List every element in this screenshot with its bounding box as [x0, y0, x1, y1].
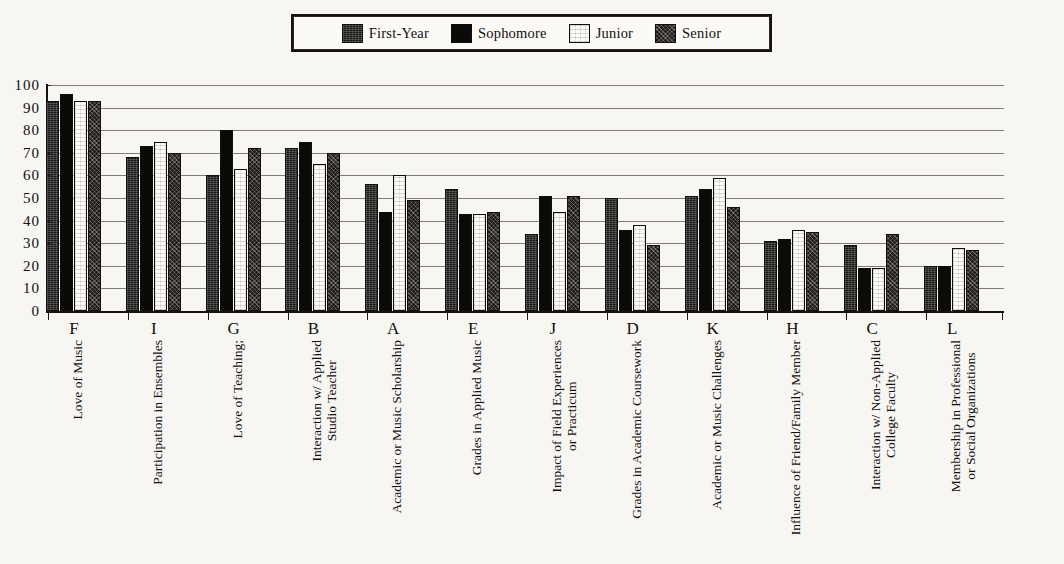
- x-tick-mark: [846, 313, 847, 320]
- bar-junior: [154, 142, 167, 312]
- x-tick-mark: [687, 313, 688, 320]
- bar-group: [844, 85, 924, 311]
- bar-sophomore: [539, 196, 552, 311]
- bar-senior: [407, 200, 420, 311]
- bar-sophomore: [459, 214, 472, 311]
- bar-senior: [88, 101, 101, 311]
- dark-textured-swatch-icon: [655, 24, 676, 43]
- bar-senior: [248, 148, 261, 311]
- bar-firstyear: [605, 198, 618, 311]
- solid-black-swatch-icon: [451, 24, 472, 43]
- x-tick-mark: [527, 313, 528, 320]
- bar-group: [525, 85, 605, 311]
- x-tick-mark: [607, 313, 608, 320]
- y-tick-label: 20: [23, 258, 40, 274]
- bar-group: [924, 85, 1004, 311]
- bar-senior: [168, 153, 181, 311]
- x-tick-mark: [767, 313, 768, 320]
- bar-firstyear: [525, 234, 538, 311]
- y-tick-mark: [46, 311, 51, 312]
- x-tick-label: F: [69, 319, 78, 339]
- category-label: Love of Music: [70, 340, 85, 419]
- bar-junior: [553, 212, 566, 311]
- y-tick-mark: [46, 85, 51, 86]
- bar-firstyear: [206, 175, 219, 311]
- bar-firstyear: [924, 266, 937, 311]
- bar-junior: [713, 178, 726, 311]
- bar-group: [206, 85, 286, 311]
- dark-hatched-swatch-icon: [342, 24, 363, 43]
- x-tick-mark: [128, 313, 129, 320]
- legend-label-sophomore: Sophomore: [478, 25, 547, 42]
- category-label-line2: or Practicum: [564, 340, 579, 493]
- bar-firstyear: [46, 101, 59, 311]
- x-tick-label: I: [151, 319, 157, 339]
- bar-sophomore: [938, 266, 951, 311]
- bar-firstyear: [285, 148, 298, 311]
- category-label: Academic or Music Scholarship: [389, 340, 404, 514]
- bar-junior: [74, 101, 87, 311]
- y-tick-mark: [46, 198, 51, 199]
- bar-firstyear: [445, 189, 458, 311]
- x-tick-mark: [1002, 313, 1003, 320]
- y-tick-label: 40: [23, 213, 40, 229]
- y-tick-mark: [46, 288, 51, 289]
- y-axis-tick-labels: 1009080706050403020100: [0, 76, 40, 321]
- category-label: Love of Teaching;: [230, 340, 245, 439]
- plot-area: [46, 85, 1004, 311]
- category-label-line2: College Faculty: [883, 340, 898, 490]
- bar-junior: [633, 225, 646, 311]
- legend-label-junior: Junior: [596, 25, 633, 42]
- bar-junior: [872, 268, 885, 311]
- bar-senior: [966, 250, 979, 311]
- bar-junior: [473, 214, 486, 311]
- category-label-line2: Studio Teacher: [324, 340, 339, 461]
- x-axis-ticks: FIGBAEJDKHCL: [46, 313, 1004, 339]
- bar-sophomore: [619, 230, 632, 311]
- x-tick-label: L: [947, 319, 957, 339]
- chart-legend: First-Year Sophomore Junior Senior: [291, 14, 772, 52]
- category-label: Grades in Academic Coursework: [629, 340, 644, 519]
- legend-item-senior: Senior: [655, 24, 721, 43]
- x-tick-mark: [367, 313, 368, 320]
- category-label: Interaction w/ Non-AppliedCollege Facult…: [868, 340, 898, 490]
- y-tick-mark: [46, 175, 51, 176]
- category-label: Interaction w/ AppliedStudio Teacher: [309, 340, 339, 461]
- legend-label-senior: Senior: [682, 25, 721, 42]
- bar-sophomore: [699, 189, 712, 311]
- x-tick-label: C: [867, 319, 878, 339]
- bar-senior: [806, 232, 819, 311]
- x-tick-label: K: [706, 319, 718, 339]
- category-label: Membership in Professionalor Social Orga…: [948, 340, 978, 492]
- x-tick-label: D: [627, 319, 639, 339]
- category-label: Influence of Friend/Family Member: [788, 340, 803, 535]
- category-label: Participation in Ensembles: [150, 340, 165, 485]
- x-tick-label: B: [308, 319, 319, 339]
- bar-junior: [792, 230, 805, 311]
- x-tick-label: H: [786, 319, 798, 339]
- bar-group: [445, 85, 525, 311]
- y-tick-label: 10: [23, 280, 40, 296]
- y-tick-label: 60: [23, 167, 40, 183]
- y-tick-mark: [46, 108, 51, 109]
- y-tick-label: 70: [23, 145, 40, 161]
- y-tick-mark: [46, 221, 51, 222]
- y-tick-mark: [46, 243, 51, 244]
- bar-junior: [234, 169, 247, 311]
- bar-sophomore: [858, 268, 871, 311]
- y-tick-mark: [46, 153, 51, 154]
- bar-sophomore: [299, 142, 312, 312]
- category-label: Impact of Field Experiencesor Practicum: [549, 340, 579, 493]
- category-label: Grades in Applied Music: [469, 340, 484, 475]
- bar-senior: [647, 245, 660, 311]
- category-label: Academic or Music Challenges: [709, 340, 724, 510]
- bar-group: [285, 85, 365, 311]
- y-tick-label: 80: [23, 122, 40, 138]
- bar-group: [126, 85, 206, 311]
- bar-senior: [487, 212, 500, 311]
- bar-senior: [567, 196, 580, 311]
- bar-group: [365, 85, 445, 311]
- x-tick-mark: [926, 313, 927, 320]
- bar-group: [605, 85, 685, 311]
- bar-senior: [886, 234, 899, 311]
